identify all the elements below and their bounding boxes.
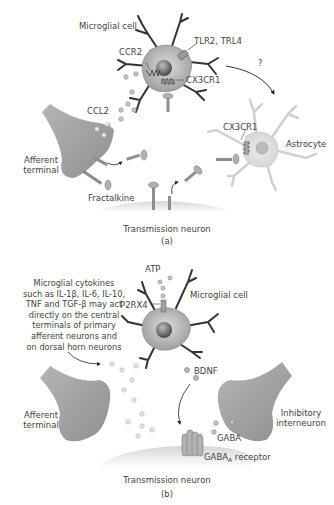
label-gaba-a-receptor: GABAA receptor [204,452,271,465]
p2rx4-receptor [161,300,166,312]
label-cx3cr1-microglia: CX3CR1 [186,75,220,85]
cytokine-note-line: on dorsal horn neurons [4,342,144,353]
label-fractalkine: Fractalkine [88,193,134,203]
label-microglial-cell-a: Microglial cell [79,21,137,31]
bdnf-arrow [178,384,190,424]
label-ccr2: CCR2 [119,47,142,57]
cytokine-note-line: afferent neurons and [4,331,144,342]
cytokine-note-line: Microglial cytokines [4,278,144,289]
afferent-terminal-b [40,366,110,441]
label-transmission-neuron-a: Transmission neuron [110,224,224,234]
label-bdnf: BDNF [194,366,218,376]
caption-a: (a) [150,236,184,246]
cytokine-note: Microglial cytokines such as IL-1β, IL-6… [4,278,144,352]
label-afferent-a-line2: terminal [18,165,64,175]
microglia-b-nucleus [156,322,172,338]
label-gaba: GABA [217,433,241,443]
cytokine-note-line: TNF and TGF-β may act [4,299,144,310]
label-transmission-neuron-b: Transmission neuron [110,475,224,485]
label-afferent-a-line1: Afferent [18,155,64,165]
label-afferent-terminal-a: Afferent terminal [18,155,64,175]
inhibitory-interneuron [218,362,292,441]
label-ccl2: CCL2 [87,106,109,116]
cytokine-note-line: directly on the central [4,310,144,321]
label-tlr: TLR2, TRL4 [194,36,242,46]
label-afferent-terminal-b: Afferent terminal [18,410,64,430]
gaba-receptor-main: GABA [204,452,228,462]
cytokine-dots [110,362,154,438]
cytokine-arrow [68,352,100,364]
label-inhibitory-line2: interneuron [274,418,328,428]
cx3cr1-microglia [162,79,174,84]
label-astrocyte: Astrocyte [286,139,326,149]
question-arrow [226,66,274,94]
astrocyte-nucleus [256,142,268,154]
label-atp: ATP [145,264,160,274]
label-question: ? [258,58,263,68]
label-afferent-b-line2: terminal [18,420,64,430]
label-microglial-cell-b: Microglial cell [190,290,248,300]
label-afferent-b-line1: Afferent [18,410,64,420]
gaba-receptor-suffix: receptor [232,452,271,462]
cytokine-note-line: terminals of primary [4,320,144,331]
atp-dots [158,276,172,298]
label-cx3cr1-astrocyte: CX3CR1 [223,122,257,132]
cx3cr1-astrocyte [244,142,249,154]
label-inhibitory-interneuron: Inhibitory interneuron [274,408,328,428]
caption-b: (b) [150,489,184,499]
label-inhibitory-line1: Inhibitory [274,408,328,418]
cytokine-note-line: such as IL-1β, IL-6, IL-10, [4,289,144,300]
